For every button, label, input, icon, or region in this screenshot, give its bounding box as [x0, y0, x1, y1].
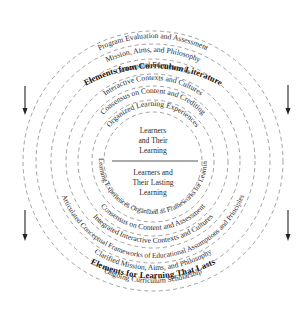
- center-bottom-line-3: Learning: [139, 188, 167, 197]
- arrow-down-icon: [23, 108, 28, 115]
- arrow-left-lower: [23, 210, 28, 241]
- center-top-line-2: and Their: [138, 136, 168, 145]
- center-bottom-line-2: Their Lasting: [132, 178, 173, 187]
- center-top-line-1: Learners: [140, 126, 167, 135]
- arrow-down-icon: [286, 108, 291, 115]
- arrow-down-icon: [23, 234, 28, 241]
- curriculum-concentric-diagram: Elements from Curriculum Literature Prog…: [0, 0, 306, 319]
- arrow-right-upper: [286, 85, 291, 115]
- top-ring-labels: Program Evaluation and Assessment Missio…: [96, 31, 210, 129]
- center-bottom-line-1: Learners and: [133, 168, 173, 177]
- center-top-line-3: Learning: [139, 146, 167, 155]
- center-core: Learners and Their Learning Learners and…: [112, 126, 198, 197]
- arrow-down-icon: [286, 234, 291, 241]
- arrow-right-lower: [286, 210, 291, 241]
- arrow-left-upper: [23, 86, 28, 115]
